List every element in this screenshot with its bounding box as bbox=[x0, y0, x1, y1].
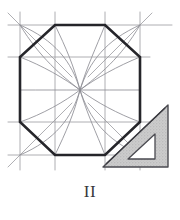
arc-15 bbox=[20, 25, 80, 90]
arc-11 bbox=[20, 90, 80, 155]
arc-7 bbox=[80, 90, 140, 122]
plate-caption: II bbox=[0, 182, 180, 202]
figure-root: II bbox=[0, 0, 180, 220]
arc-4 bbox=[80, 25, 140, 90]
arc-10 bbox=[55, 90, 80, 155]
corner-diag-bl bbox=[8, 103, 72, 167]
corner-diag-tl bbox=[8, 13, 72, 77]
arc-1 bbox=[20, 25, 80, 90]
arc-5 bbox=[80, 57, 140, 90]
corner-diag-tr bbox=[88, 13, 152, 77]
pinwheel-arc-group bbox=[20, 25, 140, 155]
set-square bbox=[103, 105, 168, 167]
arc-16 bbox=[80, 25, 140, 90]
